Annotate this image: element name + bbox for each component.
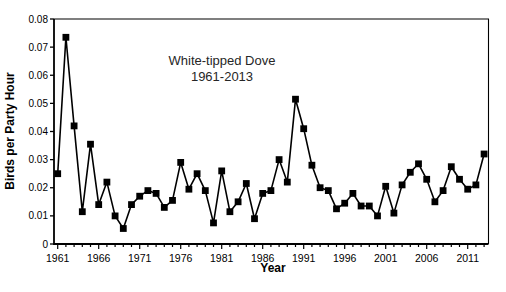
y-tick-label: 0.03: [29, 154, 49, 165]
data-point: [284, 179, 291, 186]
data-point: [87, 141, 94, 148]
data-point: [54, 170, 61, 177]
data-point: [227, 208, 234, 215]
data-point: [79, 208, 86, 215]
data-point: [276, 156, 283, 163]
data-point: [350, 190, 357, 197]
y-tick-label: 0.06: [29, 70, 49, 81]
data-point: [95, 201, 102, 208]
data-point: [399, 182, 406, 189]
data-point: [464, 186, 471, 193]
x-tick-label: 1991: [292, 252, 316, 264]
data-point: [136, 193, 143, 200]
data-point: [153, 190, 160, 197]
x-tick-label: 1961: [46, 252, 70, 264]
y-tick-label: 0.01: [29, 210, 49, 221]
data-point: [407, 169, 414, 176]
data-point: [391, 210, 398, 217]
data-point: [423, 176, 430, 183]
x-tick-label: 1996: [333, 252, 357, 264]
data-point: [243, 180, 250, 187]
data-point: [317, 184, 324, 191]
data-point: [440, 187, 447, 194]
data-point: [251, 215, 258, 222]
data-point: [194, 170, 201, 177]
data-point: [145, 187, 152, 194]
data-point: [112, 213, 119, 220]
data-point: [169, 197, 176, 204]
data-point: [382, 183, 389, 190]
data-point: [202, 187, 209, 194]
data-point: [63, 34, 70, 41]
x-tick-label: 1971: [128, 252, 152, 264]
chart-title-line1: White-tipped Dove: [169, 53, 276, 68]
data-point: [366, 203, 373, 210]
data-point: [333, 205, 340, 212]
data-point: [448, 163, 455, 170]
x-tick-label: 2006: [415, 252, 439, 264]
x-tick-label: 1981: [210, 252, 234, 264]
chart-title-line2: 1961-2013: [191, 69, 253, 84]
data-point: [309, 162, 316, 169]
data-point: [177, 159, 184, 166]
data-point: [481, 151, 488, 158]
data-point: [128, 201, 135, 208]
data-point: [341, 200, 348, 207]
x-tick-label: 2011: [456, 252, 479, 264]
data-point: [325, 187, 332, 194]
data-point: [104, 179, 111, 186]
data-point: [374, 213, 381, 220]
x-tick-label: 1976: [169, 252, 193, 264]
y-axis: 00.010.020.030.040.050.060.070.08: [29, 14, 54, 250]
y-tick-label: 0.05: [29, 98, 49, 109]
data-point: [415, 160, 422, 167]
y-axis-title: Birds per Party Hour: [3, 72, 17, 190]
chart-figure: 00.010.020.030.040.050.060.070.08 196119…: [0, 0, 506, 292]
data-point: [235, 198, 242, 205]
y-tick-label: 0: [42, 239, 48, 250]
data-point: [268, 187, 275, 194]
data-point: [358, 203, 365, 210]
y-tick-label: 0.08: [29, 14, 49, 25]
data-point: [432, 198, 439, 205]
chart-canvas: 00.010.020.030.040.050.060.070.08 196119…: [0, 0, 506, 292]
x-tick-label: 2001: [374, 252, 398, 264]
y-tick-label: 0.04: [29, 126, 49, 137]
data-point: [300, 125, 307, 132]
y-tick-label: 0.02: [29, 182, 49, 193]
data-point: [292, 96, 299, 103]
data-point: [161, 204, 168, 211]
data-point: [259, 190, 266, 197]
data-point: [473, 182, 480, 189]
y-tick-label: 0.07: [29, 42, 49, 53]
data-point: [210, 220, 217, 227]
data-point: [218, 168, 225, 175]
data-point: [120, 225, 127, 232]
data-point: [71, 123, 78, 130]
x-tick-label: 1966: [87, 252, 111, 264]
data-point: [456, 176, 463, 183]
data-point: [186, 186, 193, 193]
x-axis-title: Year: [260, 261, 286, 275]
